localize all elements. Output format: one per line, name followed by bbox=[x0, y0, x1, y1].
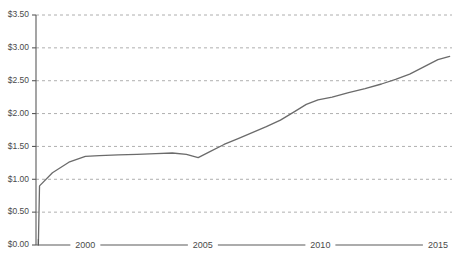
y-tick-label-0: $0.00 bbox=[8, 239, 30, 249]
y-tick-label-5: $2.50 bbox=[8, 75, 30, 85]
data-line-value bbox=[38, 56, 449, 245]
tick-labels-group: $0.00$0.50$1.00$1.50$2.00$2.50$3.00$3.50… bbox=[8, 9, 453, 251]
x-tick-label-0: 2000 bbox=[75, 240, 95, 250]
chart-canvas: $0.00$0.50$1.00$1.50$2.00$2.50$3.00$3.50… bbox=[0, 0, 457, 260]
x-tick-label-2: 2010 bbox=[310, 240, 330, 250]
gridlines-group bbox=[36, 15, 452, 212]
y-tick-label-7: $3.50 bbox=[8, 9, 30, 19]
axes-group bbox=[32, 15, 452, 245]
y-tick-label-3: $1.50 bbox=[8, 141, 30, 151]
y-tick-label-6: $3.00 bbox=[8, 42, 30, 52]
line-chart: $0.00$0.50$1.00$1.50$2.00$2.50$3.00$3.50… bbox=[0, 0, 457, 260]
x-tick-label-1: 2005 bbox=[193, 240, 213, 250]
y-tick-label-2: $1.00 bbox=[8, 174, 30, 184]
data-group bbox=[38, 56, 449, 245]
y-tick-label-1: $0.50 bbox=[8, 206, 30, 216]
y-tick-label-4: $2.00 bbox=[8, 108, 30, 118]
x-tick-label-3: 2015 bbox=[428, 240, 448, 250]
